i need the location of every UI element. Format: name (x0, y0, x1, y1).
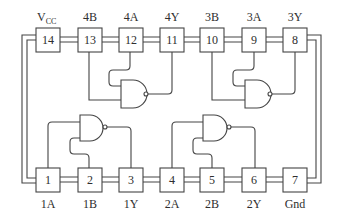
pin-13: 13 4B (78, 10, 102, 52)
svg-text:1: 1 (45, 173, 51, 187)
svg-text:4: 4 (169, 173, 175, 187)
svg-text:1Y: 1Y (124, 197, 139, 211)
svg-text:9: 9 (251, 33, 257, 47)
bottom-pin-row: 1 1A 2 1B 3 1Y 4 2A 5 2B 6 2Y (36, 168, 307, 211)
nand-gate-3 (245, 80, 272, 108)
svg-text:1B: 1B (83, 197, 97, 211)
svg-text:3Y: 3Y (288, 10, 303, 24)
svg-text:14: 14 (42, 33, 54, 47)
nand-gate-2 (203, 115, 231, 141)
svg-text:6: 6 (251, 173, 257, 187)
svg-text:10: 10 (206, 33, 218, 47)
pin-4: 4 2A (160, 168, 184, 211)
svg-text:2B: 2B (205, 197, 219, 211)
svg-text:8: 8 (292, 33, 298, 47)
svg-text:3A: 3A (247, 10, 262, 24)
svg-text:4Y: 4Y (165, 10, 180, 24)
svg-text:2A: 2A (165, 197, 180, 211)
pin-8: 8 3Y (283, 10, 307, 52)
nand-gate-1 (80, 115, 107, 141)
ic-pinout-diagram: 14 VCC 13 4B 12 4A 11 4Y 10 3B 9 3A (0, 0, 340, 221)
svg-text:3: 3 (128, 173, 134, 187)
svg-text:11: 11 (166, 33, 178, 47)
svg-text:1A: 1A (41, 197, 56, 211)
svg-text:2: 2 (87, 173, 93, 187)
pin-1: 1 1A (36, 168, 60, 211)
svg-text:4A: 4A (124, 10, 139, 24)
svg-text:2Y: 2Y (247, 197, 262, 211)
pin-11: 11 4Y (160, 10, 184, 52)
nand-gate-4 (121, 80, 148, 108)
pin-9: 9 3A (242, 10, 266, 52)
pin-14: 14 VCC (36, 10, 60, 52)
pin-2: 2 1B (78, 168, 102, 211)
svg-text:4B: 4B (83, 10, 97, 24)
top-pin-row: 14 VCC 13 4B 12 4A 11 4Y 10 3B 9 3A (36, 10, 307, 52)
pin-10: 10 3B (200, 10, 224, 52)
svg-text:VCC: VCC (37, 10, 56, 26)
pin-5: 5 2B (200, 168, 224, 211)
pin-12: 12 4A (119, 10, 143, 52)
pin-6: 6 2Y (242, 168, 266, 211)
svg-text:Gnd: Gnd (285, 197, 306, 211)
svg-text:13: 13 (84, 33, 96, 47)
pin-7: 7 Gnd (283, 168, 307, 211)
svg-text:7: 7 (292, 173, 298, 187)
pin-3: 3 1Y (119, 168, 143, 211)
wiring (48, 52, 295, 168)
svg-text:12: 12 (125, 33, 137, 47)
svg-text:3B: 3B (205, 10, 219, 24)
svg-text:5: 5 (209, 173, 215, 187)
